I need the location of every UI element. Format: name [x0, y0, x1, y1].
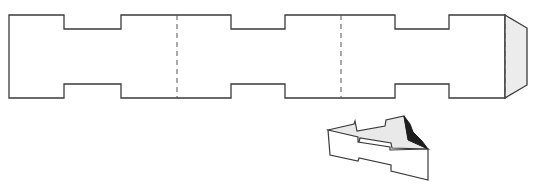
folded-model: [328, 116, 428, 180]
glue-tab: [505, 15, 527, 98]
diagram-canvas: [0, 0, 536, 186]
net-outline: [9, 15, 505, 98]
net-template: [9, 15, 527, 98]
